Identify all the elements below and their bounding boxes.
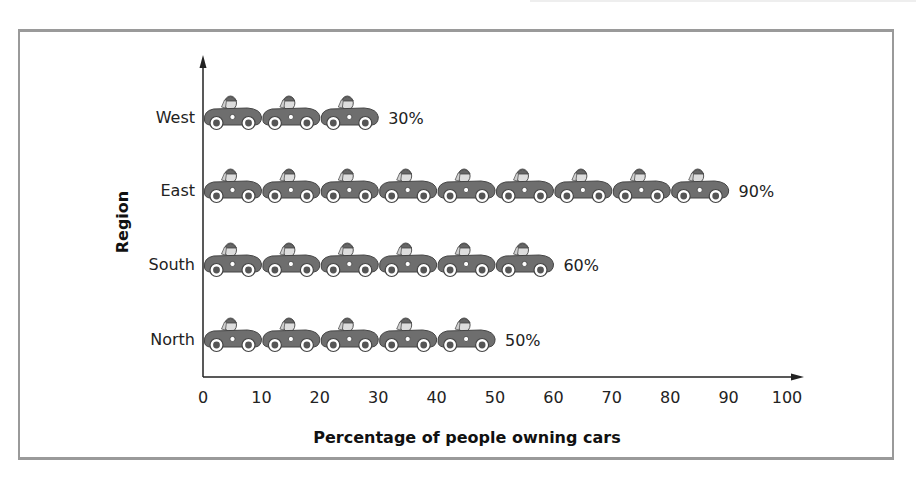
x-tick-label: 80 [660, 388, 680, 407]
car-icon [263, 243, 320, 277]
category-label: North [150, 330, 195, 349]
car-icon [438, 243, 495, 277]
y-axis-title: Region [113, 191, 132, 254]
car-icon [263, 96, 320, 130]
x-axis-arrow-icon [791, 374, 804, 381]
car-icon [263, 169, 320, 203]
car-icon [204, 243, 261, 277]
car-icon [204, 96, 261, 130]
row-west: West30% [156, 96, 424, 130]
car-icon [321, 318, 378, 352]
x-tick-label: 60 [543, 388, 563, 407]
x-tick-label: 30 [368, 388, 388, 407]
x-tick-label: 70 [602, 388, 622, 407]
car-icon [321, 243, 378, 277]
car-icon [496, 243, 553, 277]
car-icon [438, 169, 495, 203]
x-axis-title: Percentage of people owning cars [313, 428, 620, 447]
car-icon [555, 169, 612, 203]
value-label: 90% [739, 182, 775, 201]
row-north: North50% [150, 318, 540, 352]
pictograph-chart: 0102030405060708090100 West30%East90%Sou… [0, 0, 916, 486]
category-label: East [160, 181, 195, 200]
car-icon [321, 169, 378, 203]
row-east: East90% [160, 169, 774, 203]
x-tick-label: 10 [251, 388, 271, 407]
x-tick-label: 40 [426, 388, 446, 407]
car-icon [613, 169, 670, 203]
x-tick-label: 50 [485, 388, 505, 407]
row-south: South60% [149, 243, 599, 277]
x-tick-label: 100 [772, 388, 803, 407]
car-icon [204, 169, 261, 203]
x-tick-label: 0 [198, 388, 208, 407]
value-label: 60% [563, 256, 599, 275]
value-label: 30% [388, 109, 424, 128]
car-icon [496, 169, 553, 203]
car-icon [380, 169, 437, 203]
category-label: West [156, 108, 195, 127]
car-icon [380, 243, 437, 277]
car-icon [438, 318, 495, 352]
x-tick-labels: 0102030405060708090100 [198, 388, 802, 407]
x-tick-label: 90 [718, 388, 738, 407]
category-label: South [149, 255, 196, 274]
x-tick-label: 20 [310, 388, 330, 407]
car-icon [380, 318, 437, 352]
car-icon [321, 96, 378, 130]
y-axis-arrow-icon [200, 55, 207, 68]
chart-rows: West30%East90%South60%North50% [149, 96, 775, 352]
car-icon [204, 318, 261, 352]
car-icon [263, 318, 320, 352]
car-icon [672, 169, 729, 203]
value-label: 50% [505, 331, 541, 350]
